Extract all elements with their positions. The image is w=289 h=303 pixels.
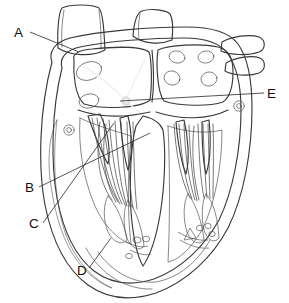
right-atrium-cavity: [157, 45, 233, 105]
left-av-valve-annulus: [78, 110, 150, 116]
papillary-muscle-left-1: [104, 196, 127, 243]
right-av-valve-annulus: [156, 110, 228, 118]
heart-diagram-svg: A B C D E: [0, 0, 289, 303]
heart-diagram-figure: A B C D E: [0, 0, 289, 303]
leader-line-b: [39, 133, 150, 187]
coronary-vessel-right: [234, 101, 244, 111]
coronary-vessel-left: [64, 125, 74, 135]
label-c: C: [29, 216, 39, 231]
conduction-tract-2: [126, 57, 146, 99]
label-d: D: [77, 263, 87, 278]
interatrial-septum: [152, 50, 154, 102]
pulmonary-vein-opening-3: [162, 69, 181, 87]
coronary-vessel-left-inner: [67, 128, 72, 133]
chordae-tendineae-right: [174, 124, 213, 201]
leader-line-e: [120, 93, 264, 101]
trabeculae-right: [178, 223, 215, 248]
atria-group: [64, 45, 244, 135]
right-valve-leaflet-anterior: [176, 120, 188, 174]
left-atrium-cavity: [74, 47, 152, 107]
leader-line-a: [30, 32, 79, 52]
pulmonary-vein-opening-1: [168, 49, 186, 64]
pulmonary-vein-opening-4: [200, 71, 218, 88]
label-a: A: [14, 25, 23, 40]
pulmonary-trunk-shade: [138, 14, 140, 39]
atrium-opening-oval-1: [74, 58, 104, 83]
ventricles-group: [78, 110, 228, 289]
label-b: B: [25, 180, 34, 195]
label-e: E: [267, 86, 276, 101]
papillary-muscle-right-1: [184, 194, 204, 243]
pulmonary-vein-opening-2: [197, 50, 215, 64]
